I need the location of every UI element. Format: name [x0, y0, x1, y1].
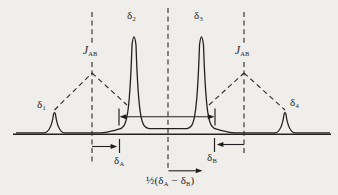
- spectrum-curve: [16, 37, 330, 133]
- coupling-left-label: JAB: [83, 44, 97, 58]
- peak3-label: δ3: [194, 9, 203, 23]
- j-guide-right-inner: [209, 73, 244, 105]
- shift-a-label: δA: [114, 154, 124, 168]
- j-guide-right-outer: [244, 73, 285, 110]
- shift-separation-arrowhead-left: [120, 114, 127, 119]
- nmr-ab-quartet-figure: δ1 δ2 δ3 δ4 JAB JAB δA δB ½(δA − δB): [0, 0, 338, 195]
- peak2-label: δ2: [127, 9, 136, 23]
- coupling-right-subscript: AB: [240, 50, 249, 57]
- half-difference-prefix: ½(δ: [146, 174, 164, 186]
- peak4-subscript: 4: [295, 102, 298, 109]
- coupling-left-subscript: AB: [88, 50, 97, 57]
- shift-b-arrowhead: [217, 142, 224, 147]
- shift-separation-arrowhead-right: [208, 114, 215, 119]
- half-difference-suffix: ): [190, 174, 194, 186]
- j-guide-left-outer: [55, 73, 93, 110]
- j-guide-left-inner: [92, 73, 127, 105]
- spectrum-drawing: [0, 0, 338, 195]
- shift-a-arrowhead: [111, 144, 118, 149]
- peak1-label: δ1: [37, 98, 46, 112]
- shift-a-subscript: A: [119, 160, 124, 167]
- half-difference-label: ½(δA − δB): [146, 174, 194, 188]
- shift-b-label: δB: [207, 151, 217, 165]
- shift-b-subscript: B: [212, 157, 216, 164]
- peak3-subscript: 3: [199, 15, 202, 22]
- half-difference-minus: − δ: [168, 174, 186, 186]
- peak2-subscript: 2: [132, 15, 135, 22]
- coupling-right-label: JAB: [235, 44, 249, 58]
- half-difference-arrowhead: [196, 168, 203, 173]
- peak1-subscript: 1: [42, 104, 45, 111]
- peak4-label: δ4: [290, 96, 299, 110]
